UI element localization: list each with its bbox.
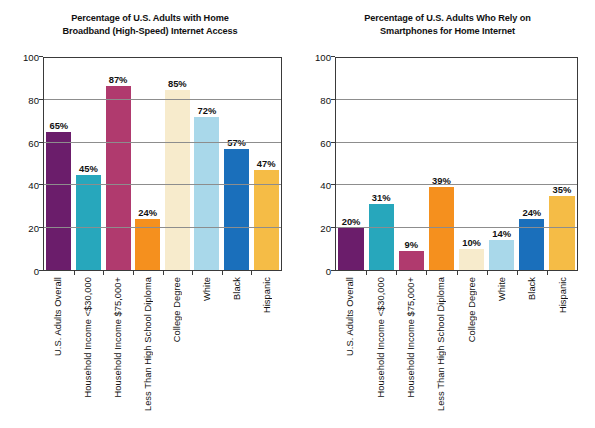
bar-group-broadband: 65%45%87%24%85%72%57%47% <box>44 58 281 270</box>
y-tick-label: 100 <box>315 52 331 63</box>
x-tick-mark <box>366 270 367 275</box>
y-axis-smartphone: 020406080100 <box>294 57 331 271</box>
figure-canvas: Percentage of U.S. Adults with Home Broa… <box>0 0 595 428</box>
x-tick-mark <box>133 270 134 275</box>
bar-slot: 45% <box>74 58 104 270</box>
bar <box>369 204 394 270</box>
bar-slot: 85% <box>163 58 193 270</box>
bar <box>399 251 424 270</box>
x-axis-label: College Degree <box>172 277 182 342</box>
x-axis-label: White <box>202 277 212 301</box>
bar-slot: 35% <box>547 58 577 270</box>
chart-title-broadband: Percentage of U.S. Adults with Home Broa… <box>0 12 300 37</box>
x-tick-mark <box>192 270 193 275</box>
y-tick-label: 80 <box>320 94 331 105</box>
x-axis-label: Household Income $75,000+ <box>113 277 123 397</box>
y-tick-label: 20 <box>28 223 39 234</box>
y-tick-label: 0 <box>326 266 331 277</box>
x-axis-label: Less Than High School Diploma <box>143 277 153 411</box>
chart-title-line-2: Broadband (High-Speed) Internet Access <box>0 25 300 38</box>
bar-slot: 47% <box>251 58 281 270</box>
gridline <box>44 184 281 185</box>
bar-slot: 72% <box>192 58 222 270</box>
x-axis-label: College Degree <box>467 277 477 342</box>
bar <box>489 240 514 270</box>
bar-group-smartphone: 20%31%9%39%10%14%24%35% <box>336 58 577 270</box>
x-tick-mark <box>74 270 75 275</box>
bar <box>46 132 71 270</box>
gridline <box>336 99 577 100</box>
y-tick-label: 40 <box>320 180 331 191</box>
gridline <box>44 142 281 143</box>
x-axis-label: White <box>497 277 507 301</box>
bar-value-label: 35% <box>533 184 591 195</box>
chart-title-line-1: Percentage of U.S. Adults Who Rely on <box>300 12 595 25</box>
y-tick-label: 80 <box>28 94 39 105</box>
y-axis-broadband: 020406080100 <box>0 57 39 271</box>
gridline <box>44 99 281 100</box>
chart-title-smartphone: Percentage of U.S. Adults Who Rely on Sm… <box>300 12 595 37</box>
x-tick-mark <box>163 270 164 275</box>
bar-slot: 87% <box>103 58 133 270</box>
x-axis-label: Less Than High School Diploma <box>436 277 446 411</box>
chart-panel-smartphone: Percentage of U.S. Adults Who Rely on Sm… <box>300 0 595 428</box>
y-tick-label: 60 <box>320 137 331 148</box>
x-tick-mark <box>396 270 397 275</box>
bar <box>459 249 484 270</box>
x-axis-label: U.S. Adults Overall <box>345 277 355 356</box>
x-tick-mark <box>457 270 458 275</box>
y-tick-label: 0 <box>34 266 39 277</box>
bar <box>429 187 454 270</box>
gridline <box>336 227 577 228</box>
bar-slot: 24% <box>517 58 547 270</box>
x-tick-mark <box>251 270 252 275</box>
bar-slot: 20% <box>336 58 366 270</box>
x-tick-mark <box>547 270 548 275</box>
bar <box>106 86 131 270</box>
chart-title-line-1: Percentage of U.S. Adults with Home <box>0 12 300 25</box>
x-axis-label: Hispanic <box>262 277 272 313</box>
x-tick-group-smartphone <box>336 270 577 276</box>
bar-slot: 24% <box>133 58 163 270</box>
bar-slot: 9% <box>396 58 426 270</box>
x-tick-group-broadband <box>44 270 281 276</box>
gridline <box>336 184 577 185</box>
x-axis-label: Household Income $75,000+ <box>406 277 416 397</box>
gridline <box>44 227 281 228</box>
x-tick-mark <box>487 270 488 275</box>
bar-value-label: 47% <box>237 158 295 169</box>
bar <box>165 90 190 270</box>
x-axis-label: Black <box>527 277 537 300</box>
x-tick-mark <box>103 270 104 275</box>
x-tick-mark <box>517 270 518 275</box>
bar-slot: 14% <box>487 58 517 270</box>
x-axis-label: Household Income <$30,000 <box>83 277 93 397</box>
x-axis-label: Hispanic <box>558 277 568 313</box>
x-axis-label: U.S. Adults Overall <box>53 277 63 356</box>
chart-title-line-2: Smartphones for Home Internet <box>300 25 595 38</box>
bar <box>549 196 574 270</box>
bar <box>254 170 279 270</box>
x-tick-mark <box>222 270 223 275</box>
plot-area-smartphone: 20%31%9%39%10%14%24%35% <box>335 57 578 271</box>
x-tick-mark <box>426 270 427 275</box>
x-axis-label: Black <box>232 277 242 300</box>
y-tick-label: 60 <box>28 137 39 148</box>
bar <box>338 228 363 270</box>
y-tick-label: 40 <box>28 180 39 191</box>
plot-area-broadband: 65%45%87%24%85%72%57%47% <box>43 57 282 271</box>
gridline <box>336 142 577 143</box>
y-tick-label: 100 <box>23 52 39 63</box>
chart-panel-broadband: Percentage of U.S. Adults with Home Broa… <box>0 0 300 428</box>
bar <box>76 175 101 270</box>
x-axis-label: Household Income <$30,000 <box>376 277 386 397</box>
